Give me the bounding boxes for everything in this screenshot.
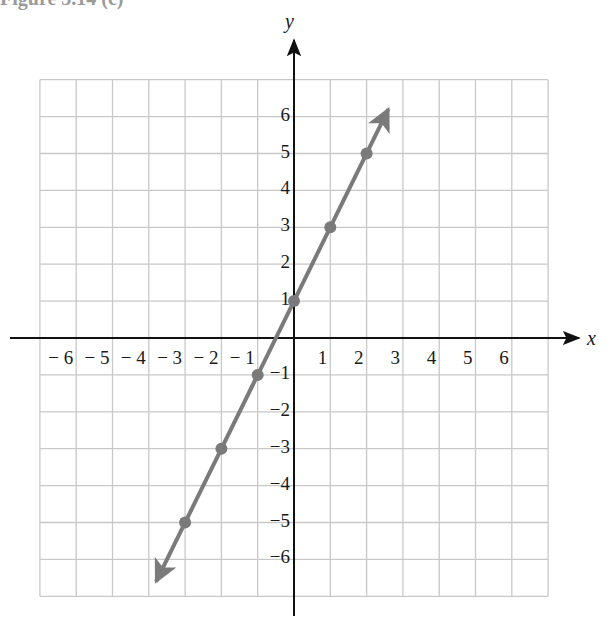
data-point (361, 148, 373, 160)
x-tick-label: − 5 (85, 347, 110, 368)
data-point (179, 517, 191, 529)
y-tick-label: −6 (270, 546, 290, 567)
y-tick-label: 2 (281, 251, 291, 272)
x-tick-label: − 1 (230, 347, 255, 368)
x-tick-label: 6 (499, 347, 509, 368)
axes: xy (10, 10, 596, 616)
y-tick-label: −3 (270, 436, 290, 457)
coordinate-plane: xy − 6− 5− 4− 3− 2− 1123456−6−5−4−3−2−11… (0, 0, 613, 617)
x-tick-label: − 6 (48, 347, 73, 368)
y-tick-label: 6 (281, 104, 291, 125)
x-tick-label: − 4 (121, 347, 146, 368)
data-point (252, 369, 264, 381)
x-tick-label: 4 (427, 347, 437, 368)
y-axis-label: y (283, 10, 294, 33)
x-tick-label: 5 (463, 347, 473, 368)
data-point (288, 295, 300, 307)
x-tick-label: − 2 (193, 347, 218, 368)
x-tick-label: 3 (390, 347, 400, 368)
data-point (324, 221, 336, 233)
y-tick-label: −5 (270, 510, 290, 531)
y-tick-label: −1 (270, 362, 290, 383)
x-tick-label: 1 (318, 347, 328, 368)
y-tick-label: −2 (270, 399, 290, 420)
y-tick-label: 3 (281, 214, 291, 235)
data-point (215, 443, 227, 455)
y-tick-label: 5 (281, 141, 291, 162)
x-tick-label: − 3 (157, 347, 182, 368)
y-tick-label: −4 (270, 473, 291, 494)
y-tick-label: 4 (281, 177, 291, 198)
x-tick-label: 2 (354, 347, 364, 368)
x-axis-label: x (586, 327, 596, 349)
